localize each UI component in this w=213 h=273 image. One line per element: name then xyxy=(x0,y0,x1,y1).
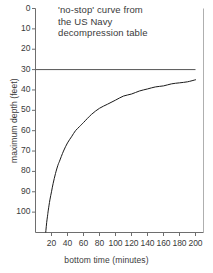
x-tick-label: 200 xyxy=(184,238,208,248)
y-tick-label: 0 xyxy=(26,3,31,13)
chart-title-line-1: 'no-stop' curve from xyxy=(58,4,208,16)
chart-title-line-3: decompression table xyxy=(58,27,208,39)
y-tick-label: 100 xyxy=(16,206,30,216)
y-tick-label: 10 xyxy=(21,23,30,33)
y-tick-label: 80 xyxy=(21,165,30,175)
x-axis-title: bottom time (minutes) xyxy=(0,255,213,265)
axis-spine xyxy=(36,9,204,233)
data-curve xyxy=(45,80,195,239)
y-tick-label: 90 xyxy=(21,186,30,196)
plot-canvas xyxy=(0,0,213,273)
y-tick-label: 50 xyxy=(21,104,30,114)
y-tick-label: 20 xyxy=(21,43,30,53)
y-tick-label: 70 xyxy=(21,145,30,155)
y-axis-title: maximum depth (feet) xyxy=(9,78,19,163)
y-tick-label: 40 xyxy=(21,84,30,94)
y-tick-label: 60 xyxy=(21,125,30,135)
chart-title: 'no-stop' curve from the US Navy decompr… xyxy=(58,4,208,39)
chart-title-line-2: the US Navy xyxy=(58,16,208,28)
y-tick-label: 30 xyxy=(21,64,30,74)
chart-figure: 'no-stop' curve from the US Navy decompr… xyxy=(0,0,213,273)
